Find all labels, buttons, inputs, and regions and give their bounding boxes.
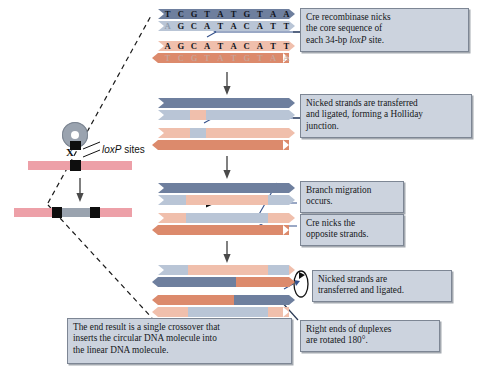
callout-branch-migration-line2: occurs. [306, 196, 399, 207]
res-strand-3 [158, 295, 289, 305]
sequence-top-lower: AGCATACATT [161, 21, 293, 31]
hj-strand-3 [158, 128, 289, 138]
plasmid-hole [71, 131, 79, 139]
expansion-guide-top [48, 14, 152, 203]
crossover-x-mark: X [66, 146, 74, 158]
callout-rotated: Right ends of duplexes are rotated 180°. [300, 320, 440, 352]
callout-rotated-line2: are rotated 180°. [306, 335, 435, 346]
res-strand-4 [158, 307, 289, 317]
rotation-loop-icon [294, 271, 308, 297]
callout-nick-core-line1: Cre recombinase nicks [306, 12, 464, 23]
hj-strand-1 [158, 98, 289, 108]
callout-cre-nicks-line2: opposite strands. [306, 229, 399, 240]
bm-strand-1 [158, 183, 289, 193]
sequence-top-upper: TCGTATGTAA [161, 9, 293, 19]
bm-strand-2 [158, 195, 289, 205]
res-strand-2 [158, 277, 289, 287]
hybrid-loxp-left [52, 207, 62, 218]
hj-strand-2 [158, 110, 289, 120]
bm-strand-3 [158, 213, 289, 223]
callout-branch-migration: Branch migration occurs. [300, 181, 404, 213]
sequence-bottom-lower: TCGTATGTAA [161, 53, 293, 63]
callout-holliday-line1: Nicked strands are transferred [306, 98, 467, 109]
callout-transferred-line2: transferred and ligated. [318, 285, 447, 296]
hj-strand-4 [158, 140, 289, 150]
expansion-guide-bottom [48, 205, 152, 318]
figure-canvas: X loxP sites TCGTATGTAA AGCATACATT [0, 0, 477, 381]
callout-rotated-line1: Right ends of duplexes [306, 324, 435, 335]
callout-transferred-ligated: Nicked strands are transferred and ligat… [312, 270, 452, 302]
callout-end-result-line3: the linear DNA molecule. [73, 345, 287, 356]
callout-nick-core-line3: each 34-bp loxP site. [306, 35, 464, 46]
callout-nick-core-line2: the core sequence of [306, 23, 464, 34]
callout-transferred-line1: Nicked strands are [318, 274, 447, 285]
callout-cre-nicks-line1: Cre nicks the [306, 218, 399, 229]
step-arrow-3 [223, 241, 230, 263]
callout-nick-core: Cre recombinase nicks the core sequence … [300, 8, 469, 52]
callout-cre-nicks-opposite: Cre nicks the opposite strands. [300, 214, 404, 246]
callout-holliday: Nicked strands are transferred and ligat… [300, 94, 472, 138]
callout-end-result: The end result is a single crossover tha… [67, 318, 292, 364]
loxp-leader-upper [83, 142, 100, 149]
sequence-bottom-upper: AGCATACATT [161, 41, 293, 51]
hybrid-loxp-right [90, 207, 100, 218]
callout-branch-migration-line1: Branch migration [306, 185, 399, 196]
callout-end-result-line1: The end result is a single crossover tha… [73, 322, 287, 333]
loxp-leader-lower [83, 150, 100, 157]
step-arrow-2 [223, 156, 230, 179]
res-strand-1 [158, 265, 289, 275]
callout-holliday-line3: junction. [306, 121, 467, 132]
callout-end-result-line2: inserts the circular DNA molecule into [73, 333, 287, 344]
overview-step-arrow [76, 178, 83, 202]
callout-holliday-line2: and ligated, forming a Holliday [306, 109, 467, 120]
loxp-sites-label: loxP sites [102, 144, 145, 155]
loxp-site-on-linear [70, 160, 81, 171]
step-arrow-1 [223, 72, 230, 95]
bm-strand-4 [158, 225, 289, 235]
